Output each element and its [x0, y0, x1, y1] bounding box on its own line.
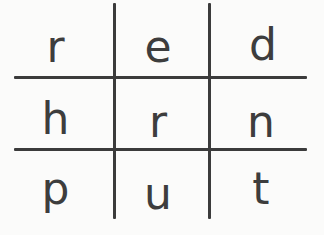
- grid-cell-row1-col1: r: [14, 14, 113, 76]
- letter-glyph: r: [149, 100, 167, 144]
- letter-glyph: r: [46, 25, 64, 69]
- letter-glyph: d: [249, 23, 277, 67]
- grid-cell-row2-col2: r: [116, 86, 208, 148]
- letter-glyph: t: [252, 167, 269, 211]
- letter-glyph: e: [144, 25, 171, 69]
- letter-glyph: n: [247, 100, 275, 144]
- grid-horizontal-line-1: [14, 76, 307, 79]
- letter-glyph: u: [144, 172, 172, 216]
- letter-glyph: h: [42, 97, 70, 141]
- grid-cell-row2-col1: h: [14, 86, 113, 148]
- grid-cell-row1-col2: e: [116, 14, 208, 76]
- letter-glyph: p: [42, 167, 70, 211]
- grid-cell-row1-col3: d: [211, 14, 307, 76]
- letter-grid-worksheet: r e d h r n p u t: [0, 0, 324, 235]
- grid-cell-row3-col3: t: [211, 158, 307, 220]
- grid-cell-row2-col3: n: [211, 86, 307, 148]
- grid-cell-row3-col2: u: [116, 158, 208, 220]
- grid-cell-row3-col1: p: [14, 158, 113, 220]
- grid-horizontal-line-2: [14, 148, 307, 151]
